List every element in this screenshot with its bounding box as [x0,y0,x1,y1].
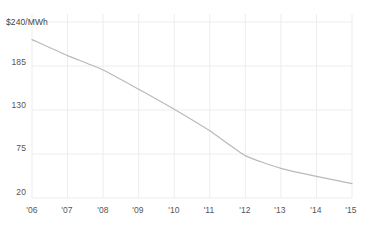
x-axis-tick-09: '09 [125,205,151,215]
x-axis-tick-11: '11 [196,205,222,215]
x-axis-tick-15: '15 [338,205,364,215]
x-axis-tick-08: '08 [90,205,116,215]
y-axis-tick-130: 130 [0,100,26,110]
line-chart: $240/MWh 185 130 75 20 '06 '07 '08 '09 '… [0,0,367,229]
chart-plot-area [0,0,367,229]
y-axis-tick-185: 185 [0,57,26,67]
grid-lines-vertical [32,14,352,198]
x-axis-tick-07: '07 [54,205,80,215]
x-axis-tick-06: '06 [19,205,45,215]
grid-lines-horizontal [32,22,352,198]
series-line-price [32,40,352,184]
x-axis-tick-13: '13 [267,205,293,215]
y-axis-label-units: $240/MWh [6,17,66,27]
y-axis-tick-20: 20 [0,187,26,197]
x-axis-tick-10: '10 [161,205,187,215]
y-axis-tick-75: 75 [0,143,26,153]
x-axis-tick-14: '14 [303,205,329,215]
x-axis-tick-12: '12 [232,205,258,215]
